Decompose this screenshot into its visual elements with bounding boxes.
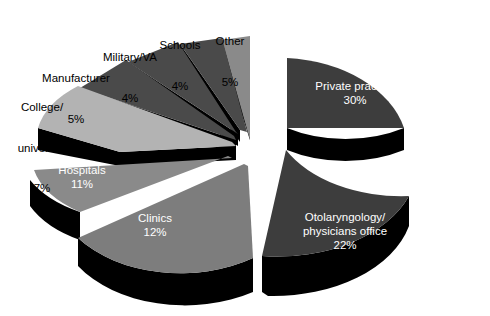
label-clinics-value: 12% bbox=[143, 226, 166, 238]
pie-chart-figure: Private practice 30% Otolaryngology/ phy… bbox=[0, 0, 490, 316]
label-college-value: 7% bbox=[6, 182, 78, 196]
depth-private-practice bbox=[287, 128, 404, 161]
label-otolaryngology-line1: Otolaryngology/ bbox=[305, 211, 386, 223]
label-schools: Schools 4% bbox=[150, 12, 210, 120]
label-other: Other 5% bbox=[205, 8, 255, 116]
slice-private-practice[interactable] bbox=[287, 58, 404, 128]
label-schools-value: 4% bbox=[150, 80, 210, 94]
label-schools-name: Schools bbox=[150, 39, 210, 53]
label-otolaryngology-line2: physicians office bbox=[303, 225, 387, 237]
label-private-practice-value: 30% bbox=[343, 94, 366, 106]
label-private-practice-name: Private practice bbox=[315, 80, 394, 92]
label-otolaryngology-value: 22% bbox=[333, 239, 356, 251]
label-other-value: 5% bbox=[205, 76, 255, 90]
label-other-name: Other bbox=[205, 35, 255, 49]
label-clinics-name: Clinics bbox=[138, 212, 172, 224]
